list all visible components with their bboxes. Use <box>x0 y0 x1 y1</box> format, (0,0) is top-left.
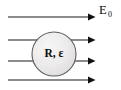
field-label-E: E <box>99 3 107 17</box>
field-line-4 <box>8 76 96 83</box>
diagram-canvas: R, ε E 0 <box>0 0 121 90</box>
sphere-label: R, ε <box>45 47 64 59</box>
field-line-2-arrowhead <box>88 36 96 43</box>
field-label-group: E 0 <box>99 3 112 19</box>
field-line-4-arrowhead <box>88 76 96 83</box>
field-label-subscript: 0 <box>108 10 112 19</box>
field-line-1 <box>8 13 96 20</box>
field-line-3-arrowhead <box>88 57 96 64</box>
physics-diagram-figure: R, ε E 0 <box>0 0 121 90</box>
field-line-1-arrowhead <box>88 13 96 20</box>
